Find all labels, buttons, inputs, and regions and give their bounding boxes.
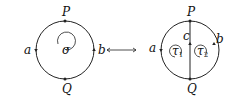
label-a-right: a <box>149 42 156 54</box>
right-arrow-b <box>92 48 96 51</box>
left-vertex-p <box>64 20 67 23</box>
left-vertex-q <box>64 78 67 81</box>
right-vertex-p <box>189 20 192 23</box>
label-b-right: b <box>216 33 224 45</box>
right-vertex-q <box>189 78 192 81</box>
label-a-left: a <box>24 44 31 56</box>
diagram-canvas: P Q a b σ P Q a b c τ1 τ2 <box>0 0 229 100</box>
label-sigma: σ <box>62 44 70 56</box>
label-q-left: Q <box>62 83 72 95</box>
label-b-left: b <box>98 44 106 56</box>
label-tau1: τ1 <box>172 45 183 59</box>
label-p-right: P <box>187 6 195 18</box>
label-tau2: τ2 <box>197 45 208 59</box>
label-q-right: Q <box>187 83 197 95</box>
label-c: c <box>183 30 190 42</box>
left-arrow-a <box>34 49 38 52</box>
label-p-left: P <box>62 6 70 18</box>
